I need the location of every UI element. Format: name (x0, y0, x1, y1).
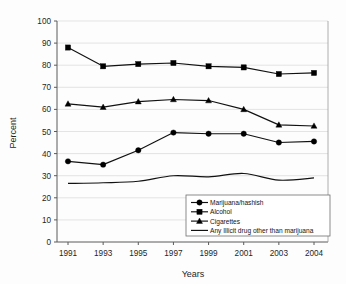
x-axis-title: Years (182, 269, 205, 279)
series-path (68, 173, 314, 183)
y-tick-label: 60 (42, 105, 52, 114)
series-4 (68, 173, 314, 183)
data-point-marker (65, 159, 70, 164)
y-tick-label: 100 (37, 17, 51, 26)
x-tick-label: 2003 (270, 249, 289, 258)
chart-legend: Marijuana/hashishAlcoholCigarettesAny Il… (186, 195, 330, 236)
x-tick-label: 1999 (199, 249, 218, 258)
y-tick-label: 40 (42, 150, 52, 159)
x-tick-label: 2004 (305, 249, 324, 258)
series-path (68, 48, 314, 75)
y-tick-label: 70 (42, 83, 52, 92)
legend-label: Any Illicit drug other than marijuana (210, 227, 314, 235)
y-tick-label: 0 (46, 238, 51, 247)
data-point-marker (100, 162, 105, 167)
x-tick-label: 2001 (235, 249, 254, 258)
y-tick-label: 10 (42, 216, 52, 225)
data-point-marker (241, 131, 246, 136)
series-3 (65, 96, 317, 128)
y-tick-label: 90 (42, 39, 52, 48)
data-point-marker (241, 65, 246, 70)
legend-label: Alcohol (210, 208, 232, 215)
data-point-marker (197, 209, 202, 214)
legend-label: Cigarettes (210, 218, 241, 226)
data-point-marker (206, 131, 211, 136)
chart-canvas: 0102030405060708090100 19911993199519971… (0, 0, 346, 284)
data-point-marker (171, 60, 176, 65)
y-axis-title: Percent (8, 117, 18, 149)
series-2 (65, 45, 316, 77)
data-series-layer (65, 45, 317, 184)
series-path (68, 133, 314, 165)
y-tick-label: 80 (42, 61, 52, 70)
series-path (68, 99, 314, 126)
legend-item-2: Alcohol (191, 208, 232, 215)
series-1 (65, 130, 316, 167)
data-point-marker (65, 45, 70, 50)
data-point-marker (276, 140, 281, 145)
data-point-marker (171, 130, 176, 135)
data-point-marker (136, 61, 141, 66)
y-tick-label: 30 (42, 172, 52, 181)
x-tick-label: 1993 (94, 249, 113, 258)
data-point-marker (101, 64, 106, 69)
legend-item-4: Any Illicit drug other than marijuana (191, 227, 314, 235)
data-point-marker (311, 70, 316, 75)
y-tick-label: 20 (42, 194, 52, 203)
data-point-marker (206, 64, 211, 69)
y-tick-label: 50 (42, 128, 52, 137)
y-axis-ticks: 0102030405060708090100 (37, 17, 57, 247)
x-tick-label: 1991 (59, 249, 78, 258)
data-point-marker (197, 200, 202, 205)
data-point-marker (276, 71, 281, 76)
data-point-marker (136, 148, 141, 153)
data-point-marker (65, 101, 71, 106)
legend-label: Marijuana/hashish (210, 199, 264, 207)
data-point-marker (311, 139, 316, 144)
x-tick-label: 1997 (164, 249, 183, 258)
gridlines (57, 21, 328, 220)
x-tick-label: 1995 (129, 249, 148, 258)
line-chart: 0102030405060708090100 19911993199519971… (0, 0, 346, 284)
x-axis-ticks: 19911993199519971999200120032004 (59, 242, 324, 258)
